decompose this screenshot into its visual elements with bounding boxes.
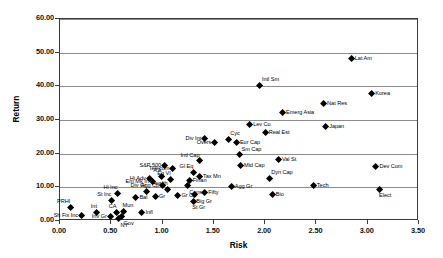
x-axis-tickmark bbox=[59, 220, 60, 224]
data-point-label: Int bbox=[91, 203, 97, 209]
data-point-label: Dyn Cap bbox=[271, 169, 292, 175]
data-point-label: Mun bbox=[123, 202, 134, 208]
x-axis-tick-label: 0.50 bbox=[90, 226, 130, 235]
data-point-label: Gl Eq bbox=[180, 163, 194, 169]
data-point-marker bbox=[113, 209, 120, 216]
data-point-label: Sm Cap bbox=[242, 146, 262, 152]
data-point-label: Korea bbox=[375, 90, 390, 96]
data-point-label: Bio bbox=[276, 191, 284, 197]
x-axis-tick-label: 2.00 bbox=[244, 226, 284, 235]
data-point-marker bbox=[108, 196, 115, 203]
data-point-label: Elect bbox=[379, 192, 391, 198]
data-point-marker bbox=[368, 90, 375, 97]
data-point-marker bbox=[348, 55, 355, 62]
x-axis-tick-label: 0.00 bbox=[39, 226, 79, 235]
data-point-marker bbox=[118, 213, 125, 220]
data-point-label: Gov bbox=[124, 220, 134, 226]
y-axis-tick-label: 40.00 bbox=[8, 81, 54, 89]
data-point-marker bbox=[269, 191, 276, 198]
data-point-marker bbox=[322, 123, 329, 130]
data-point-label: Infl bbox=[146, 209, 153, 215]
data-point-marker bbox=[211, 139, 218, 146]
data-point-label: St Gr bbox=[192, 204, 205, 210]
data-point-marker bbox=[67, 204, 74, 211]
data-point-label: S&P 500 bbox=[139, 162, 161, 168]
y-axis-tick-label: 30.00 bbox=[8, 115, 54, 123]
data-point-label: Bal bbox=[139, 194, 147, 200]
data-point-label: Big Gr bbox=[196, 198, 212, 204]
data-point-marker bbox=[275, 156, 282, 163]
data-point-label: PRHI bbox=[57, 198, 70, 204]
data-point-label: Eq VI bbox=[157, 170, 170, 176]
data-point-marker bbox=[78, 212, 85, 219]
data-point-label: Eur Cap bbox=[240, 139, 260, 145]
data-point-label: Inv Gr bbox=[92, 213, 107, 219]
gridline bbox=[60, 154, 417, 155]
data-point-marker bbox=[169, 165, 176, 172]
data-point-label: CA bbox=[109, 203, 117, 209]
gridline bbox=[60, 120, 417, 121]
data-point-marker bbox=[114, 190, 121, 197]
data-point-marker bbox=[196, 157, 203, 164]
data-point-label: Lev Co bbox=[253, 121, 270, 127]
x-axis-tickmark bbox=[213, 220, 214, 224]
data-point-marker bbox=[320, 100, 327, 107]
x-axis-tickmark bbox=[367, 220, 368, 224]
data-point-label: Japan bbox=[329, 123, 344, 129]
y-axis-tick-label: 0.00 bbox=[8, 216, 54, 224]
data-point-marker bbox=[120, 208, 127, 215]
x-axis-title: Risk bbox=[59, 240, 418, 250]
x-axis-tickmark bbox=[418, 220, 419, 224]
data-point-marker bbox=[261, 128, 268, 135]
x-axis-tickmark bbox=[110, 220, 111, 224]
data-point-marker bbox=[138, 209, 145, 216]
data-point-label: Em Mk In bbox=[126, 178, 149, 184]
data-point-marker bbox=[167, 176, 174, 183]
data-point-marker bbox=[146, 175, 153, 182]
data-point-label: Nat Res bbox=[327, 100, 347, 106]
data-point-label: Div Int bbox=[186, 135, 202, 141]
data-point-label: St Inc bbox=[97, 191, 111, 197]
data-point-marker bbox=[279, 109, 286, 116]
data-point-marker bbox=[174, 192, 181, 199]
data-point-label: A A bbox=[153, 167, 161, 173]
data-point-marker bbox=[190, 197, 197, 204]
data-point-label: Overs bbox=[197, 139, 212, 145]
x-axis-tick-label: 2.50 bbox=[295, 226, 335, 235]
x-axis-tickmark bbox=[162, 220, 163, 224]
y-axis-tick-label: 10.00 bbox=[8, 182, 54, 190]
gridline bbox=[60, 53, 417, 54]
data-point-marker bbox=[152, 193, 159, 200]
data-point-marker bbox=[233, 139, 240, 146]
data-point-marker bbox=[266, 175, 273, 182]
data-point-marker bbox=[190, 169, 197, 176]
gridline bbox=[60, 19, 417, 20]
data-point-marker bbox=[256, 82, 263, 89]
data-point-label: Lat Am bbox=[355, 55, 372, 61]
data-point-marker bbox=[201, 135, 208, 142]
data-point-marker bbox=[132, 193, 139, 200]
x-axis-tickmark bbox=[264, 220, 265, 224]
data-point-label: Hi Adv bbox=[130, 175, 146, 181]
data-point-label: Cons bbox=[189, 189, 202, 195]
data-point-marker bbox=[196, 173, 203, 180]
data-point-label: Tax Mn bbox=[203, 173, 221, 179]
data-point-marker bbox=[372, 162, 379, 169]
data-point-label: Real Est bbox=[269, 129, 290, 135]
gridline bbox=[60, 187, 417, 188]
data-point-marker bbox=[237, 162, 244, 169]
data-point-marker bbox=[93, 209, 100, 216]
data-point-marker bbox=[236, 151, 243, 158]
data-point-label: Gr Cp bbox=[181, 192, 196, 198]
y-axis-tick-label: 20.00 bbox=[8, 149, 54, 157]
data-point-marker bbox=[158, 173, 165, 180]
plot-area: Sh Fix IncIntPRHIInv GrCANYMunInflGovSt … bbox=[59, 18, 418, 220]
data-point-label: Intl Sm bbox=[262, 76, 279, 82]
data-point-label: Telecom bbox=[149, 165, 169, 171]
data-point-marker bbox=[246, 121, 253, 128]
y-axis-tick-label: 50.00 bbox=[8, 48, 54, 56]
data-point-marker bbox=[107, 213, 114, 220]
data-point-label: Sh Fix Inc bbox=[54, 212, 78, 218]
data-point-label: Fifty bbox=[208, 189, 218, 195]
data-point-marker bbox=[149, 178, 156, 185]
